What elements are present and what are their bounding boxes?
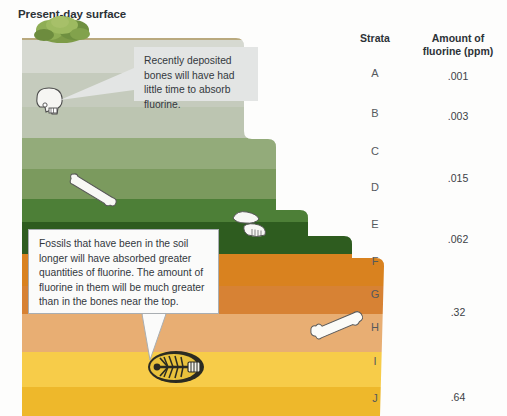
shrub-icon: [34, 16, 90, 43]
fluorine-value-f: .062: [408, 233, 507, 245]
fluorine-column-header: Amount of fluorine (ppm): [408, 32, 507, 58]
fish-skeleton-fossil-icon: [148, 351, 204, 383]
callout-older-fossils: Fossils that have been in the soil longe…: [28, 229, 219, 314]
strata-label-b: B: [340, 107, 410, 119]
strata-label-h: H: [340, 321, 410, 333]
strata-label-e: E: [340, 218, 410, 230]
soil-layer-d: [0, 138, 507, 169]
strata-label-g: G: [340, 288, 410, 300]
strata-column-header: Strata: [340, 32, 410, 45]
fluorine-value-b: .003: [408, 110, 507, 122]
fluorine-dating-figure: Present-day surface: [0, 0, 507, 416]
callout-recent-bones: Recently deposited bones will have had l…: [134, 47, 258, 101]
strata-label-c: C: [340, 145, 410, 157]
fluorine-value-h: .32: [408, 306, 507, 318]
fluorine-value-d: .015: [408, 172, 507, 184]
strata-label-i: I: [340, 355, 410, 367]
strata-label-d: D: [340, 181, 410, 193]
strata-label-a: A: [340, 67, 410, 79]
soil-layer-k: [0, 352, 507, 387]
strata-label-f: F: [340, 255, 410, 267]
fluorine-header-line-1: Amount of: [432, 32, 485, 44]
fluorine-value-a: .001: [408, 70, 507, 82]
fluorine-header-line-2: fluorine (ppm): [423, 45, 494, 57]
soil-layer-j: [0, 314, 507, 352]
strata-label-j: J: [340, 392, 410, 404]
fluorine-value-j: .64: [408, 391, 507, 403]
